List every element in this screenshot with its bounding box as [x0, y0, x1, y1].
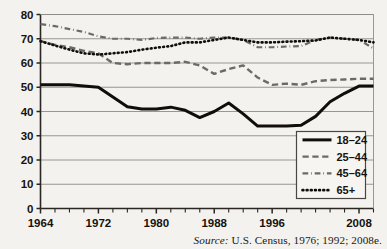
y-axis-label-10: 10 — [21, 178, 34, 190]
y-axis-label-70: 70 — [21, 33, 34, 45]
legend-label-65+: 65+ — [337, 184, 356, 196]
chart-legend: 18–2425–4445–6465+ — [297, 132, 368, 199]
y-axis-label-60: 60 — [21, 57, 34, 69]
chart-figure: 01020304050607080 1964197219801988199620… — [0, 0, 387, 249]
x-axis-label-1980: 1980 — [144, 217, 170, 229]
y-axis-label-40: 40 — [21, 106, 34, 118]
y-axis-label-80: 80 — [21, 9, 34, 21]
source-note: Source: U.S. Census, 1976; 1992; 2008e. — [194, 234, 382, 246]
x-axis-label-2008: 2008 — [346, 217, 372, 229]
source-text: U.S. Census, 1976; 1992; 2008e. — [229, 234, 382, 246]
line-chart: 01020304050607080 1964197219801988199620… — [0, 0, 387, 249]
x-axis-label-1972: 1972 — [86, 217, 112, 229]
x-axis-label-1988: 1988 — [201, 217, 227, 229]
y-axis-label-50: 50 — [21, 81, 34, 93]
y-axis-label-0: 0 — [27, 203, 33, 215]
legend-label-18-24: 18–24 — [337, 134, 368, 146]
y-axis-label-20: 20 — [21, 154, 34, 166]
source-label: Source: — [194, 234, 229, 246]
legend-label-25-44: 25–44 — [337, 151, 368, 163]
x-axis-label-1996: 1996 — [259, 217, 285, 229]
legend-label-45-64: 45–64 — [337, 167, 368, 179]
y-axis-label-30: 30 — [21, 130, 34, 142]
y-axis-labels: 01020304050607080 — [21, 9, 34, 215]
x-axis-label-1964: 1964 — [28, 217, 54, 229]
